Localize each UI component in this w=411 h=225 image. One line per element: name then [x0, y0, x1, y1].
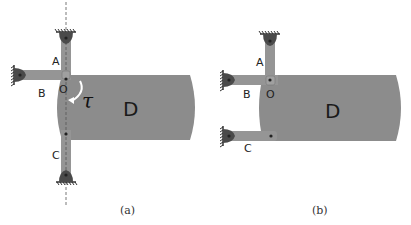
joint-o [64, 77, 67, 80]
label-b: B [243, 88, 251, 101]
mechanism-figure: A B C O τ D (a) [0, 0, 411, 225]
label-a: A [52, 55, 60, 68]
ground-support-c [220, 126, 235, 147]
ground-support-b [220, 70, 235, 91]
label-o: O [266, 88, 275, 101]
label-body-d: D [325, 99, 340, 123]
ground-support-c [56, 170, 77, 185]
ground-support-b [11, 65, 26, 86]
label-b: B [38, 87, 46, 100]
label-c: C [52, 149, 60, 162]
panel-a: A B C O τ D (a) [11, 2, 195, 217]
joint-o [268, 78, 271, 81]
joint-c [64, 132, 67, 135]
ground-support-a [259, 31, 280, 46]
panel-b: A B C O D (b) [220, 31, 401, 217]
caption-a: (a) [120, 204, 135, 217]
joint-c [269, 134, 272, 137]
label-tau: τ [82, 89, 94, 113]
ground-support-a [55, 29, 76, 44]
label-a: A [256, 56, 264, 69]
label-o: O [59, 83, 68, 96]
label-c: C [244, 142, 252, 155]
label-body-d: D [123, 97, 138, 121]
caption-b: (b) [312, 204, 328, 217]
